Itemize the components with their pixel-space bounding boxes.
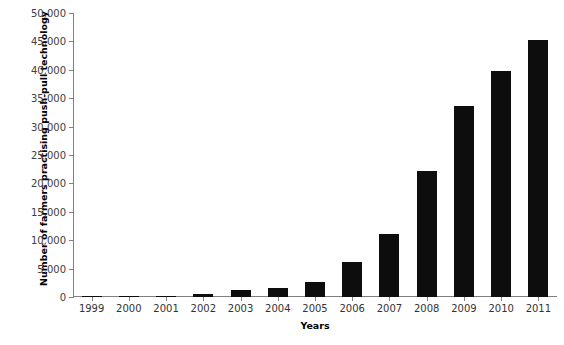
y-tick-label: 40,000	[12, 64, 66, 75]
y-tick-label: 20,000	[12, 178, 66, 189]
bar	[231, 290, 251, 297]
x-tick-label: 2009	[451, 303, 476, 314]
y-tick-mark	[69, 183, 73, 184]
y-tick-label: 45,000	[12, 36, 66, 47]
y-tick-label: 50,000	[12, 8, 66, 19]
x-tick-label: 2008	[414, 303, 439, 314]
y-tick-mark	[69, 127, 73, 128]
bar	[454, 106, 474, 297]
y-tick-mark	[69, 240, 73, 241]
y-tick-mark	[69, 269, 73, 270]
y-tick-label: 30,000	[12, 121, 66, 132]
x-tick-mark	[464, 297, 465, 301]
x-axis-tick-labels: 1999200020012002200320042005200620072008…	[73, 303, 557, 319]
y-tick-mark	[69, 297, 73, 298]
y-tick-label: 35,000	[12, 93, 66, 104]
x-tick-label: 2004	[265, 303, 290, 314]
y-tick-label: 25,000	[12, 150, 66, 161]
x-tick-label: 2011	[526, 303, 551, 314]
bar	[379, 234, 399, 297]
y-tick-mark	[69, 155, 73, 156]
bar	[268, 288, 288, 297]
x-tick-label: 2005	[302, 303, 327, 314]
x-tick-label: 2000	[116, 303, 141, 314]
x-tick-mark	[352, 297, 353, 301]
x-tick-label: 2002	[191, 303, 216, 314]
x-tick-mark	[203, 297, 204, 301]
x-tick-mark	[166, 297, 167, 301]
y-tick-mark	[69, 70, 73, 71]
bar-chart: Number of farmers practising push-pull t…	[0, 0, 564, 345]
bar	[528, 40, 548, 297]
x-tick-label: 2007	[377, 303, 402, 314]
x-tick-label: 2010	[488, 303, 513, 314]
bar	[491, 71, 511, 297]
y-tick-mark	[69, 41, 73, 42]
y-tick-label: 15,000	[12, 206, 66, 217]
x-tick-mark	[278, 297, 279, 301]
plot-area	[73, 13, 557, 297]
y-axis-tick-labels: 05,00010,00015,00020,00025,00030,00035,0…	[12, 0, 66, 345]
x-tick-mark	[92, 297, 93, 301]
bar	[417, 171, 437, 297]
x-tick-mark	[315, 297, 316, 301]
bar	[342, 262, 362, 297]
x-tick-mark	[501, 297, 502, 301]
x-tick-mark	[538, 297, 539, 301]
y-tick-label: 10,000	[12, 235, 66, 246]
y-axis-line	[73, 13, 74, 298]
x-tick-mark	[241, 297, 242, 301]
x-tick-label: 2006	[339, 303, 364, 314]
x-tick-label: 2001	[153, 303, 178, 314]
x-axis-title: Years	[73, 320, 557, 331]
x-tick-label: 1999	[79, 303, 104, 314]
y-tick-label: 0	[12, 292, 66, 303]
y-tick-mark	[69, 98, 73, 99]
x-tick-label: 2003	[228, 303, 253, 314]
y-tick-mark	[69, 13, 73, 14]
y-tick-mark	[69, 212, 73, 213]
x-tick-mark	[129, 297, 130, 301]
y-tick-label: 5,000	[12, 263, 66, 274]
bar	[305, 282, 325, 297]
x-tick-mark	[427, 297, 428, 301]
x-tick-mark	[389, 297, 390, 301]
